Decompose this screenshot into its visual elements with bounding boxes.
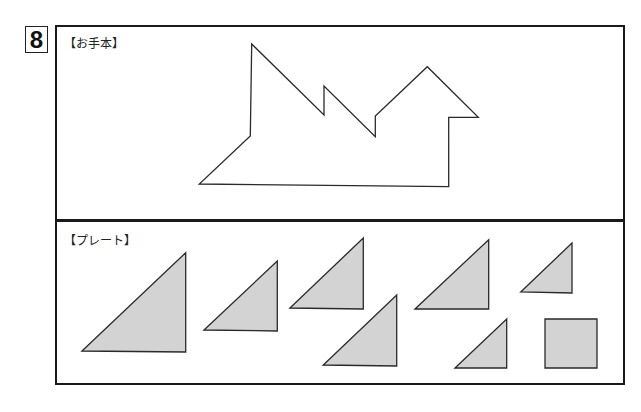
plate-pieces: [82, 238, 597, 368]
piece-medium-triangle-4: [415, 240, 489, 309]
piece-medium-triangle-1: [204, 261, 277, 331]
piece-medium-triangle-2: [290, 238, 363, 309]
piece-square: [545, 319, 597, 368]
puzzle-drawing: [0, 0, 641, 412]
model-silhouette: [199, 44, 478, 187]
piece-small-triangle-1: [521, 243, 572, 293]
piece-large-triangle: [82, 253, 186, 352]
piece-small-triangle-2: [455, 319, 507, 368]
